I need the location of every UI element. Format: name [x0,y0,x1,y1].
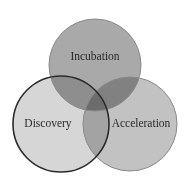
acceleration-label: Acceleration [112,117,171,129]
discovery-label: Discovery [24,117,72,130]
venn-diagram: Incubation Discovery Acceleration [0,0,189,187]
incubation-label: Incubation [70,50,119,62]
